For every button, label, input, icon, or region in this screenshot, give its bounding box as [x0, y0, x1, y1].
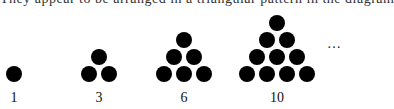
dot [289, 49, 305, 65]
dot [259, 66, 275, 82]
dot [176, 32, 192, 48]
group-label: 10 [257, 90, 297, 106]
dot [196, 66, 212, 82]
dot [156, 66, 172, 82]
continuation-ellipsis: … [327, 36, 342, 52]
dot [6, 66, 22, 82]
dot [81, 66, 97, 82]
dot [249, 49, 265, 65]
dot [239, 66, 255, 82]
dot [279, 66, 295, 82]
dot [279, 32, 295, 48]
dot [91, 49, 107, 65]
group-label: 3 [79, 90, 119, 106]
dot [269, 49, 285, 65]
dot [166, 49, 182, 65]
dot [186, 49, 202, 65]
dot [176, 66, 192, 82]
group-label: 6 [164, 90, 204, 106]
dot [259, 32, 275, 48]
dot [101, 66, 117, 82]
group-label: 1 [0, 90, 34, 106]
dot [299, 66, 315, 82]
caption-fragment: They appear to be arranged in a triangul… [0, 0, 345, 7]
dot [269, 15, 285, 31]
